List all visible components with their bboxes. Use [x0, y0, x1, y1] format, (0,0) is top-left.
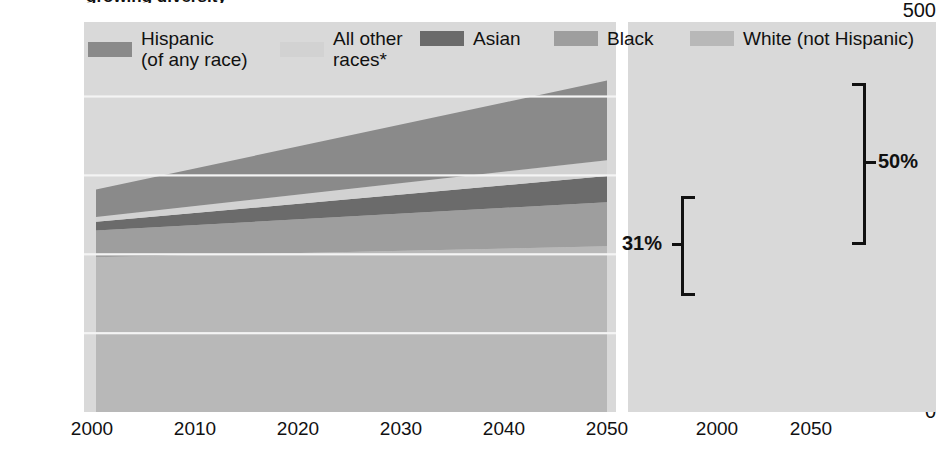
legend: Hispanic(of any race) All otherraces* As… — [84, 28, 936, 80]
bracket-2000-bot — [681, 293, 695, 296]
x-tick-area-2040: 2040 — [459, 418, 549, 440]
bracket-2050-top — [852, 83, 866, 86]
legend-label-black: Black — [607, 28, 653, 49]
legend-swatch-white — [690, 31, 734, 46]
x-tick-bar-2050: 2050 — [766, 418, 856, 440]
bar-chart-panel — [628, 22, 936, 412]
x-tick-area-2020: 2020 — [253, 418, 343, 440]
legend-swatch-all-other-races — [280, 42, 324, 57]
legend-item-all-other-races[interactable]: All otherraces* — [280, 28, 403, 70]
bracket-2000-top — [681, 196, 695, 199]
legend-swatch-black — [554, 31, 598, 46]
chart-figure: growing diversity 500 million 400 300 20… — [0, 0, 936, 453]
x-tick-area-2030: 2030 — [356, 418, 446, 440]
bracket-2050-bot — [852, 242, 866, 245]
legend-item-black[interactable]: Black — [554, 28, 653, 49]
bracket-2050-tick — [866, 161, 876, 164]
legend-label-hispanic-line1: Hispanic — [141, 28, 248, 49]
annotation-label-31: 31% — [622, 232, 662, 255]
bracket-2000-spine — [681, 196, 684, 296]
legend-label-white: White (not Hispanic) — [743, 28, 914, 49]
legend-item-hispanic[interactable]: Hispanic(of any race) — [88, 28, 248, 70]
legend-label-asian: Asian — [473, 28, 521, 49]
area-series-group — [96, 81, 607, 412]
legend-label-all-other-races-line1: All other — [333, 28, 403, 49]
x-tick-area-2010: 2010 — [150, 418, 240, 440]
bracket-2050-spine — [863, 83, 866, 245]
legend-item-asian[interactable]: Asian — [420, 28, 521, 49]
x-tick-area-2050: 2050 — [562, 418, 652, 440]
annotation-label-50: 50% — [878, 150, 918, 173]
legend-item-white[interactable]: White (not Hispanic) — [690, 28, 914, 49]
bracket-2000-tick — [672, 243, 681, 246]
legend-label-hispanic-line2: (of any race) — [141, 49, 248, 70]
x-tick-area-2000: 2000 — [47, 418, 137, 440]
legend-swatch-asian — [420, 31, 464, 46]
legend-label-all-other-races-line2: races* — [333, 49, 403, 70]
legend-swatch-hispanic — [88, 42, 132, 57]
x-tick-bar-2000: 2000 — [672, 418, 762, 440]
